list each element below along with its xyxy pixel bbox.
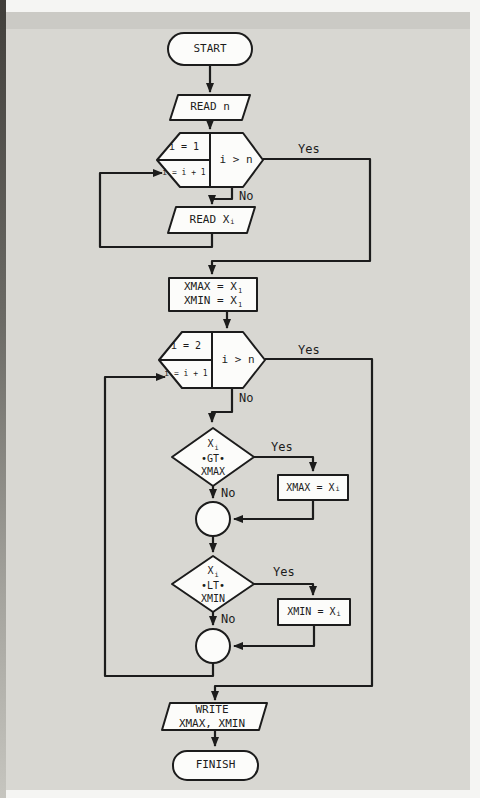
edge-gt-yes [254,457,313,471]
loop2-yes-label: Yes [298,344,330,358]
lt-yes-label: Yes [273,566,305,580]
edge-setxmax-to-circle1 [234,500,313,519]
init-box-label: XMAX = X1 XMIN = X1 [169,279,257,311]
gt-diamond-operator: •GT• [201,452,225,465]
init-box-line1: XMAX = X1 [184,281,242,295]
write-label: WRITE XMAX, XMIN [162,703,262,730]
edge-loop1-no [212,187,232,204]
loop1-no-label: No [239,190,265,204]
init-box-line2: XMIN = X1 [184,295,242,309]
lt-diamond-label: Xi •LT• XMIN [173,561,253,607]
start-label: START [168,33,252,65]
gt-no-label: No [221,487,247,501]
lt-no-label: No [221,613,247,627]
read-x-subscript: i [230,219,234,226]
connector-circle-1 [196,502,230,536]
loop2-increment-label: i = i + 1 [161,361,211,387]
edge-loop2-no [212,388,232,422]
gt-diamond-label: Xi •GT• XMAX [173,434,253,480]
loop1-test-label: i > n [210,133,262,187]
lt-diamond-operand: XMIN [201,592,225,605]
gt-diamond-operand: XMAX [201,465,225,478]
gt-yes-label: Yes [271,441,303,455]
read-x-label: READ Xi [170,207,254,233]
loop2-test-label: i > n [212,332,264,388]
loop2-no-label: No [239,392,265,406]
read-n-label: READ n [172,95,248,120]
lt-diamond-operator: •LT• [201,579,225,592]
edge-lt-yes [254,584,313,595]
loop1-yes-label: Yes [298,143,330,157]
connector-circle-2 [196,629,230,663]
write-line2: XMAX, XMIN [179,717,245,730]
write-line1: WRITE [195,703,228,716]
read-x-base: READ X [190,214,230,227]
scanned-flowchart-page: START READ n i = 1 i = i + 1 i > n Yes N… [0,0,480,798]
gt-diamond-variable: Xi [207,437,218,452]
edge-loop2-yes [215,359,372,700]
set-xmax-label: XMAX = Xi [278,475,348,500]
loop2-init-label: i = 2 [161,333,211,359]
lt-diamond-variable: Xi [207,564,218,579]
set-xmin-label: XMIN = Xi [278,599,350,625]
edge-setxmin-to-circle2 [234,625,314,646]
loop1-increment-label: i = i + 1 [159,161,209,185]
loop1-init-label: i = 1 [159,134,209,159]
finish-label: FINISH [173,751,258,780]
